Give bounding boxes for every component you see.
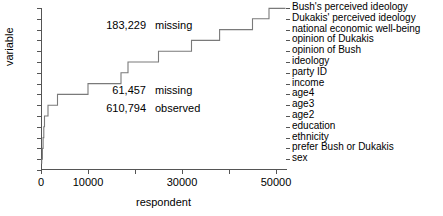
annotation-label: missing (155, 19, 192, 31)
x-axis-title: respondent (41, 196, 286, 208)
x-tick-label-0: 0 (29, 176, 53, 188)
variable-label: Dukakis' perceived ideology (292, 13, 443, 24)
variable-label: prefer Bush or Dukakis (292, 142, 443, 153)
annotation-number: 183,229 (98, 19, 146, 31)
annotation-label: missing (155, 84, 192, 96)
x-tick-label-50000: 50000 (252, 176, 300, 188)
chart-root: 183,229missing 61,457missing 610,794obse… (0, 0, 443, 216)
variable-label: sex (292, 153, 443, 164)
annotation-number: 61,457 (98, 84, 146, 96)
annotation-missing-upper: 183,229missing (98, 19, 192, 31)
variable-label: education (292, 121, 443, 132)
annotation-label: observed (155, 102, 200, 114)
variable-label: age4 (292, 88, 443, 99)
y-axis-title: variable (3, 27, 15, 66)
variable-label: age3 (292, 99, 443, 110)
annotation-observed: 610,794observed (98, 102, 200, 114)
plot-area: 183,229missing 61,457missing 610,794obse… (41, 8, 286, 170)
variable-label-list: Bush's perceived ideology Dukakis' perce… (292, 2, 443, 164)
annotation-missing-lower: 61,457missing (98, 84, 192, 96)
variable-label: income (292, 78, 443, 89)
x-tick-label-30000: 30000 (158, 176, 206, 188)
x-tick-label-10000: 10000 (64, 176, 112, 188)
annotation-number: 610,794 (98, 102, 146, 114)
variable-label: party ID (292, 67, 443, 78)
